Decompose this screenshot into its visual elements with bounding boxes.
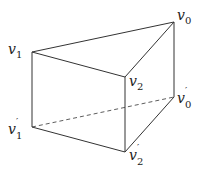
- svg-text:0: 0: [185, 99, 191, 110]
- prism-diagram: v 0 v 1 v 2 v ′ 0 v ′ 1 v ′ 2: [0, 0, 205, 171]
- svg-text:0: 0: [185, 15, 191, 26]
- svg-text:v: v: [129, 73, 137, 89]
- edge-v1prime-v2prime: [32, 127, 125, 152]
- prism-svg: v 0 v 1 v 2 v ′ 0 v ′ 1 v ′ 2: [0, 0, 205, 171]
- svg-text:′: ′: [185, 85, 188, 96]
- svg-text:2: 2: [137, 156, 143, 167]
- svg-text:′: ′: [16, 116, 19, 127]
- hidden-edge-v1prime-v0prime: [32, 97, 174, 127]
- svg-text:v: v: [129, 147, 137, 163]
- svg-text:2: 2: [137, 81, 143, 92]
- svg-text:v: v: [177, 90, 185, 106]
- label-v0-prime: v ′ 0: [177, 85, 191, 110]
- edge-v2-v0: [125, 22, 174, 77]
- edge-v1-v2: [32, 52, 125, 77]
- svg-text:v: v: [8, 121, 16, 137]
- svg-text:1: 1: [16, 49, 22, 60]
- label-v0: v 0: [177, 7, 191, 26]
- label-v1-prime: v ′ 1: [8, 116, 22, 141]
- svg-text:1: 1: [16, 130, 22, 141]
- edge-v2prime-v0prime: [125, 97, 174, 152]
- svg-text:v: v: [8, 41, 16, 57]
- edge-v0-v1: [32, 22, 174, 52]
- svg-text:′: ′: [137, 142, 140, 153]
- label-v2: v 2: [129, 73, 143, 92]
- label-v1: v 1: [8, 41, 22, 60]
- svg-text:v: v: [177, 7, 185, 23]
